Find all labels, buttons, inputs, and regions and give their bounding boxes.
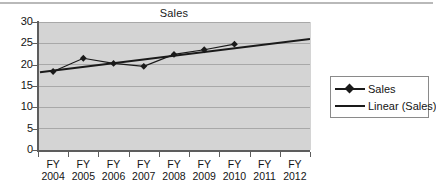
- data-point-marker: [80, 55, 87, 62]
- y-axis-tick-mark: [32, 43, 37, 44]
- x-axis-tick-mark: [98, 152, 99, 157]
- y-axis-tick-labels: 051015202530: [0, 0, 33, 184]
- x-axis-tick-mark: [68, 152, 69, 157]
- y-axis-line: [37, 21, 39, 151]
- legend-line-marker-icon: [335, 83, 365, 95]
- x-axis-tick-mark: [159, 152, 160, 157]
- x-axis-tick-mark: [129, 152, 130, 157]
- legend-item-sales: Sales: [335, 81, 396, 97]
- y-axis-tick-label: 5: [7, 123, 33, 134]
- x-axis-tick-mark: [280, 152, 281, 157]
- x-axis-tick-mark: [219, 152, 220, 157]
- chart-title: Sales: [38, 7, 310, 19]
- y-axis-tick-label: 20: [7, 59, 33, 70]
- data-point-marker: [140, 63, 147, 70]
- chart-legend: Sales Linear (Sales): [330, 76, 429, 118]
- x-axis-tick-mark: [250, 152, 251, 157]
- y-axis-tick-label: 15: [7, 80, 33, 91]
- x-axis-line: [37, 150, 310, 152]
- series-sales: [50, 41, 238, 75]
- y-axis-tick-mark: [32, 129, 37, 130]
- y-axis-tick-label: 0: [7, 144, 33, 155]
- y-axis-tick-label: 30: [7, 16, 33, 27]
- y-axis-tick-mark: [32, 65, 37, 66]
- legend-item-linear-sales: Linear (Sales): [335, 98, 436, 114]
- data-point-marker: [110, 60, 117, 67]
- plot-canvas: [38, 22, 310, 150]
- legend-item-label: Sales: [365, 83, 396, 95]
- x-axis-tick-mark: [189, 152, 190, 157]
- y-axis-tick-label: 10: [7, 101, 33, 112]
- x-axis-tick-mark: [310, 152, 311, 157]
- legend-line-icon: [335, 100, 365, 112]
- data-point-marker: [50, 68, 57, 75]
- data-point-marker: [231, 41, 238, 48]
- legend-item-label: Linear (Sales): [365, 100, 436, 112]
- y-axis-tick-label: 25: [7, 37, 33, 48]
- x-axis-tick-mark: [38, 152, 39, 157]
- y-axis-tick-mark: [32, 107, 37, 108]
- gridlines: [38, 22, 310, 129]
- y-axis-tick-mark: [32, 22, 37, 23]
- y-axis-tick-mark: [32, 86, 37, 87]
- x-axis-tick-label: FY2012: [275, 158, 315, 182]
